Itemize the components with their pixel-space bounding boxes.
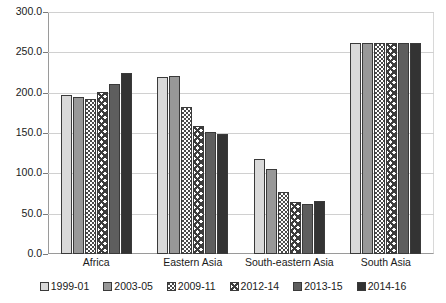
bar bbox=[73, 97, 84, 254]
bar-chart: 300.0250.0200.0150.0100.050.00.0 AfricaE… bbox=[0, 0, 446, 303]
bar bbox=[290, 202, 301, 254]
legend-swatch-icon bbox=[103, 282, 112, 291]
x-axis-label: Africa bbox=[48, 256, 145, 268]
bar bbox=[266, 169, 277, 254]
bar bbox=[254, 159, 265, 254]
y-tick-label-250: 250.0 bbox=[0, 45, 42, 57]
legend-item[interactable]: 2003-05 bbox=[103, 281, 153, 292]
legend-swatch-icon bbox=[357, 282, 366, 291]
legend-swatch-icon bbox=[40, 282, 49, 291]
bar bbox=[121, 73, 132, 254]
bar bbox=[278, 192, 289, 254]
y-tick-mark-200 bbox=[43, 93, 48, 94]
legend-item[interactable]: 2012-14 bbox=[230, 281, 280, 292]
legend-swatch-icon bbox=[230, 282, 239, 291]
bar-group bbox=[338, 12, 435, 254]
y-tick-label-200: 200.0 bbox=[0, 86, 42, 98]
bar bbox=[97, 92, 108, 254]
y-tick-label-300: 300.0 bbox=[0, 5, 42, 17]
bar bbox=[193, 126, 204, 254]
legend-label: 2009-11 bbox=[178, 281, 216, 292]
x-axis-label: South-eastern Asia bbox=[241, 256, 338, 268]
bar-group bbox=[48, 12, 145, 254]
legend-item[interactable]: 2013-15 bbox=[293, 281, 343, 292]
legend-label: 1999-01 bbox=[51, 281, 90, 292]
y-tick-label-0: 0.0 bbox=[0, 247, 42, 259]
y-tick-mark-300 bbox=[43, 12, 48, 13]
bar bbox=[109, 84, 120, 254]
y-tick-label-50: 50.0 bbox=[0, 207, 42, 219]
x-axis-category-labels: AfricaEastern AsiaSouth-eastern AsiaSout… bbox=[48, 256, 434, 268]
bar-group bbox=[145, 12, 242, 254]
bar bbox=[157, 77, 168, 254]
legend-label: 2012-14 bbox=[241, 281, 280, 292]
legend-item[interactable]: 1999-01 bbox=[40, 281, 90, 292]
y-tick-mark-150 bbox=[43, 133, 48, 134]
y-tick-label-100: 100.0 bbox=[0, 166, 42, 178]
bar bbox=[386, 43, 397, 254]
legend-item[interactable]: 2009-11 bbox=[167, 281, 216, 292]
legend-swatch-icon bbox=[293, 282, 302, 291]
y-tick-label-150: 150.0 bbox=[0, 126, 42, 138]
legend-label: 2003-05 bbox=[114, 281, 153, 292]
chart-legend: 1999-012003-052009-112012-142013-152014-… bbox=[0, 281, 446, 292]
bar bbox=[302, 204, 313, 254]
bar bbox=[398, 43, 409, 254]
bar bbox=[217, 134, 228, 254]
bar-group bbox=[241, 12, 338, 254]
bar bbox=[181, 107, 192, 254]
bar bbox=[169, 76, 180, 254]
bar bbox=[374, 43, 385, 254]
y-tick-mark-100 bbox=[43, 173, 48, 174]
bar bbox=[410, 43, 421, 254]
y-tick-mark-50 bbox=[43, 214, 48, 215]
y-tick-mark-0 bbox=[43, 254, 48, 255]
bar bbox=[61, 95, 72, 254]
bar bbox=[350, 43, 361, 254]
bar bbox=[205, 132, 216, 254]
x-axis-label: Eastern Asia bbox=[145, 256, 242, 268]
y-tick-mark-250 bbox=[43, 52, 48, 53]
legend-label: 2013-15 bbox=[304, 281, 343, 292]
bar bbox=[85, 99, 96, 254]
legend-label: 2014-16 bbox=[368, 281, 407, 292]
plot-area bbox=[48, 12, 434, 254]
x-axis-label: South Asia bbox=[338, 256, 435, 268]
legend-item[interactable]: 2014-16 bbox=[357, 281, 407, 292]
bar bbox=[314, 201, 325, 254]
bar-groups bbox=[48, 12, 434, 254]
legend-swatch-icon bbox=[167, 282, 176, 291]
bar bbox=[362, 43, 373, 254]
